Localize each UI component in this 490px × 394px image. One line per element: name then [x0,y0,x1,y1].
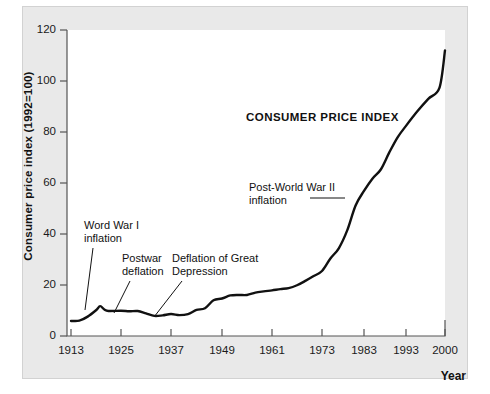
x-tick-label-2000: 2000 [422,344,468,356]
x-tick-label-1961: 1961 [249,344,295,356]
x-tick-label-1937: 1937 [148,344,194,356]
x-tick-label-1925: 1925 [98,344,144,356]
x-tick-label-1949: 1949 [199,344,245,356]
annotation-great-depression: Deflation of Great Depression [172,252,258,278]
x-axis-title: Year [441,369,466,383]
y-tick-label-120: 120 [22,23,56,35]
annotation-post-world-war-ii: Post-World War II inflation [249,181,335,207]
annotation-world-war-i: Word War I inflation [84,219,139,245]
chart-title: CONSUMER PRICE INDEX [246,111,399,123]
x-tick-label-1913: 1913 [48,344,94,356]
y-tick-label-20: 20 [22,278,56,290]
y-tick-label-0: 0 [22,329,56,341]
annotation-postwar-deflation: Postwar deflation [122,252,164,278]
y-tick-label-60: 60 [22,176,56,188]
x-tick-label-1983: 1983 [341,344,387,356]
cpi-chart-figure: Consumer price index (1992=100) 120 100 … [0,0,490,394]
y-tick-label-40: 40 [22,227,56,239]
y-tick-label-100: 100 [22,74,56,86]
x-tick-label-1973: 1973 [299,344,345,356]
y-tick-label-80: 80 [22,125,56,137]
